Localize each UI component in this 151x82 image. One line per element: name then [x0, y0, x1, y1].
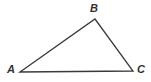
triangle-figure: A B C [0, 0, 151, 82]
triangle-drawing [0, 0, 151, 82]
vertex-label-c: C [137, 64, 145, 75]
vertex-label-a: A [7, 64, 15, 75]
vertex-label-b: B [90, 3, 98, 14]
